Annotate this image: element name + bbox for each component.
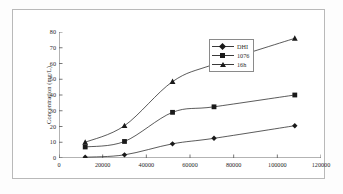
data-point-marker	[292, 123, 297, 128]
chart-legend: DHI107616h	[209, 39, 254, 72]
data-point-marker	[82, 139, 88, 144]
y-tick-label: 10	[50, 139, 56, 145]
series-line	[85, 38, 295, 142]
legend-label: 1076	[237, 51, 249, 60]
legend-item: 1076	[212, 51, 249, 60]
y-tick-label: 40	[50, 92, 56, 98]
legend-marker-icon	[212, 42, 234, 51]
series-line	[85, 95, 295, 147]
data-series	[83, 93, 297, 150]
data-point-marker	[170, 110, 175, 115]
data-point-marker	[170, 141, 175, 146]
x-tick-label: 0	[57, 162, 60, 168]
y-tick-label: 60	[50, 60, 56, 66]
data-series	[82, 35, 297, 144]
series-group	[82, 35, 297, 158]
chart-frame: Concentration (mg/L) 01020304050607080 0…	[12, 9, 325, 179]
data-series	[83, 123, 298, 158]
data-point-marker	[122, 152, 127, 157]
plot-area: Concentration (mg/L) 01020304050607080 0…	[59, 32, 321, 158]
legend-marker-icon	[212, 51, 234, 60]
data-point-marker	[292, 93, 297, 98]
x-tick-label: 40000	[139, 162, 154, 168]
y-tick-label: 30	[50, 108, 56, 114]
legend-label: 16h	[237, 60, 246, 69]
legend-marker-icon	[212, 60, 234, 69]
x-tick-label: 120000	[312, 162, 331, 168]
legend-label: DHI	[237, 42, 248, 51]
data-point-marker	[212, 104, 217, 109]
data-point-marker	[122, 139, 127, 144]
data-point-marker	[170, 79, 176, 84]
x-tick-label: 20000	[95, 162, 110, 168]
y-tick-label: 20	[50, 123, 56, 129]
legend-item: 16h	[212, 60, 249, 69]
data-point-marker	[211, 136, 216, 141]
chart-figure: Concentration (mg/L) 01020304050607080 0…	[0, 0, 343, 194]
legend-item: DHI	[212, 42, 249, 51]
data-point-marker	[83, 155, 88, 158]
data-point-marker	[83, 145, 88, 150]
x-tick-label: 60000	[182, 162, 197, 168]
y-tick-label: 50	[50, 76, 56, 82]
y-tick-label: 80	[50, 29, 56, 35]
x-tick-label: 80000	[226, 162, 241, 168]
y-tick-label: 70	[50, 45, 56, 51]
data-point-marker	[122, 123, 128, 128]
x-tick-label: 100000	[268, 162, 287, 168]
plot-canvas	[59, 32, 321, 158]
y-tick-label: 0	[53, 155, 56, 161]
data-point-marker	[292, 35, 298, 40]
axis-lines	[59, 32, 321, 158]
